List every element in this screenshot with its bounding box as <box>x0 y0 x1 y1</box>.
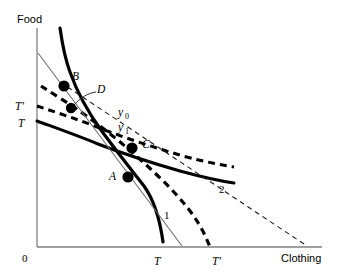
curve-label-y1-sub: 1 <box>125 127 129 136</box>
curve-label-y0-base: y <box>117 106 124 119</box>
budget-line-1 <box>38 53 182 246</box>
point-B-marker <box>58 80 69 91</box>
budget-line-2 <box>60 82 307 246</box>
x-tick-label-T-prime: T' <box>212 255 221 267</box>
origin-label: 0 <box>22 252 28 264</box>
figure-canvas: Food Clothing 0 T' T T T' B D C A y 0 y … <box>0 0 346 277</box>
y-tick-label-T-prime: T' <box>15 100 24 112</box>
point-D-label: D <box>96 83 106 95</box>
point-D-marker <box>66 103 76 113</box>
curve-label-y1-base: y <box>117 121 124 134</box>
x-axis-label: Clothing <box>281 252 321 264</box>
curve-label-y0-sub: 0 <box>125 112 129 121</box>
curve-label-y0: y 0 <box>117 106 129 121</box>
budget-line-2-label: 2 <box>219 183 225 195</box>
x-tick-label-T: T <box>154 255 162 267</box>
budget-line-1-label: 1 <box>164 209 170 221</box>
point-A-marker <box>122 171 133 182</box>
point-C-label: C <box>142 138 150 150</box>
point-A-label: A <box>108 170 117 182</box>
y-axis-label: Food <box>17 13 42 25</box>
y-tick-label-T: T <box>18 117 26 129</box>
point-B-label: B <box>72 70 79 82</box>
economics-ppf-diagram: Food Clothing 0 T' T T T' B D C A y 0 y … <box>0 0 346 277</box>
point-C-marker <box>126 142 137 153</box>
